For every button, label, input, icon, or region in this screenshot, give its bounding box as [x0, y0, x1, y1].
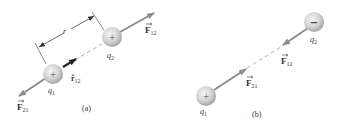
force-arrow-f21: [214, 69, 246, 90]
charge-q1-b: +: [196, 86, 216, 106]
q1-label-b: q1: [200, 107, 207, 117]
panel-b-caption: (b): [252, 110, 262, 119]
plus-sign: +: [50, 70, 57, 79]
f21-label-a: F21: [17, 100, 29, 113]
svg-text:F21: F21: [17, 102, 29, 113]
q2-label-a: q2: [107, 51, 114, 61]
svg-text:F12: F12: [281, 56, 293, 67]
dimension-extension-q2: [92, 12, 104, 30]
unit-vector-arrow: [63, 59, 76, 67]
distance-label: r: [63, 27, 67, 36]
panel-b: + − q1 q2 F12 F21 (b): [196, 12, 324, 119]
f12-label-a: F12: [145, 23, 157, 36]
coulomb-force-diagram: r + + q1 q2 r̂12 F12 F21: [0, 0, 340, 128]
panel-a: r + + q1 q2 r̂12 F12 F21: [17, 12, 157, 113]
plus-sign: +: [203, 92, 210, 101]
charge-q1-a: +: [43, 64, 63, 84]
force-arrow-f12: [283, 28, 308, 45]
unit-vector-label: r̂12: [71, 74, 81, 84]
dimension-arrow-left: [39, 33, 64, 47]
q1-label-a: q1: [48, 86, 55, 96]
separation-line: [247, 45, 284, 68]
force-arrow-f21: [19, 78, 46, 96]
charge-q2-a: +: [102, 27, 122, 47]
minus-sign: −: [310, 17, 318, 28]
svg-text:F12: F12: [145, 25, 157, 36]
q2-label-b: q2: [310, 35, 317, 45]
plus-sign: +: [109, 33, 116, 42]
svg-text:F21: F21: [246, 78, 258, 89]
f21-label-b: F21: [246, 76, 258, 89]
charge-q2-b: −: [304, 12, 324, 32]
panel-a-caption: (a): [82, 104, 91, 113]
f12-label-b: F12: [281, 54, 293, 67]
dimension-arrow-right: [71, 16, 94, 29]
